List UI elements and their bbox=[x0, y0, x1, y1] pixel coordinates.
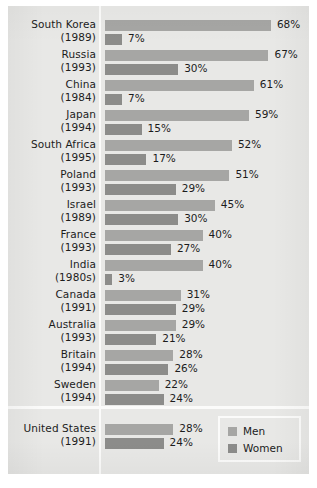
country-name: France bbox=[8, 228, 96, 241]
row-label-russia: Russia(1993) bbox=[8, 48, 96, 74]
bar-line-women: 30% bbox=[105, 64, 309, 75]
legend-label-men: Men bbox=[243, 425, 265, 437]
bar-line-men: 61% bbox=[105, 80, 309, 91]
bar-men bbox=[105, 350, 173, 361]
bar-men bbox=[105, 424, 173, 435]
row-bars: 45%30% bbox=[105, 198, 309, 228]
bar-line-men: 28% bbox=[105, 350, 309, 361]
bar-women bbox=[105, 154, 146, 165]
bar-line-women: 26% bbox=[105, 364, 309, 375]
legend-label-women: Women bbox=[243, 442, 283, 454]
chart-row: Australia(1993)29%21% bbox=[8, 318, 309, 348]
row-bars: 29%21% bbox=[105, 318, 309, 348]
chart-legend: Men Women bbox=[218, 416, 301, 462]
country-year: (1991) bbox=[8, 301, 96, 314]
bar-value-men: 52% bbox=[238, 138, 261, 150]
bar-women bbox=[105, 364, 168, 375]
bar-value-men: 40% bbox=[209, 258, 232, 270]
row-bars: 28%26% bbox=[105, 348, 309, 378]
bar-line-men: 22% bbox=[105, 380, 309, 391]
bar-line-women: 17% bbox=[105, 154, 309, 165]
bar-women bbox=[105, 304, 176, 315]
bar-men bbox=[105, 80, 254, 91]
chart-row: Russia(1993)67%30% bbox=[8, 48, 309, 78]
bar-line-women: 7% bbox=[105, 94, 309, 105]
bar-line-men: 29% bbox=[105, 320, 309, 331]
bar-line-men: 45% bbox=[105, 200, 309, 211]
bar-men bbox=[105, 50, 268, 61]
country-name: Japan bbox=[8, 108, 96, 121]
country-name: Israel bbox=[8, 198, 96, 211]
country-name: United States bbox=[8, 422, 96, 435]
bar-line-women: 7% bbox=[105, 34, 309, 45]
bar-men bbox=[105, 140, 232, 151]
chart-panel: South Korea(1989)68%7%Russia(1993)67%30%… bbox=[8, 6, 309, 474]
row-label-canada: Canada(1991) bbox=[8, 288, 96, 314]
bar-women bbox=[105, 64, 178, 75]
bar-value-women: 17% bbox=[152, 152, 175, 164]
country-name: South Korea bbox=[8, 18, 96, 31]
bar-value-men: 31% bbox=[187, 288, 210, 300]
bar-women bbox=[105, 274, 112, 285]
bar-men bbox=[105, 380, 159, 391]
bar-men bbox=[105, 110, 249, 121]
country-year: (1993) bbox=[8, 61, 96, 74]
bar-value-women: 30% bbox=[184, 62, 207, 74]
row-bars: 40%27% bbox=[105, 228, 309, 258]
country-name: Russia bbox=[8, 48, 96, 61]
row-bars: 59%15% bbox=[105, 108, 309, 138]
bar-line-women: 15% bbox=[105, 124, 309, 135]
bar-value-men: 40% bbox=[209, 228, 232, 240]
bar-women bbox=[105, 244, 171, 255]
chart-row: Britain(1994)28%26% bbox=[8, 348, 309, 378]
legend-item-women: Women bbox=[228, 442, 283, 454]
bar-line-women: 30% bbox=[105, 214, 309, 225]
row-bars: 31%29% bbox=[105, 288, 309, 318]
bar-value-men: 68% bbox=[277, 18, 300, 30]
country-year: (1995) bbox=[8, 151, 96, 164]
bar-line-men: 68% bbox=[105, 20, 309, 31]
bar-value-men: 51% bbox=[235, 168, 258, 180]
bar-value-women: 24% bbox=[170, 392, 193, 404]
row-label-japan: Japan(1994) bbox=[8, 108, 96, 134]
country-name: China bbox=[8, 78, 96, 91]
bar-women bbox=[105, 438, 164, 449]
country-year: (1989) bbox=[8, 31, 96, 44]
bar-value-women: 30% bbox=[184, 212, 207, 224]
bar-women bbox=[105, 334, 156, 345]
bar-value-women: 15% bbox=[148, 122, 171, 134]
row-label-poland: Poland(1993) bbox=[8, 168, 96, 194]
bar-value-men: 67% bbox=[274, 48, 297, 60]
bar-value-women: 27% bbox=[177, 242, 200, 254]
legend-swatch-men-icon bbox=[228, 427, 237, 436]
bar-men bbox=[105, 260, 203, 271]
bar-chart-figure: South Korea(1989)68%7%Russia(1993)67%30%… bbox=[0, 0, 317, 488]
bar-line-men: 52% bbox=[105, 140, 309, 151]
row-label-south-africa: South Africa(1995) bbox=[8, 138, 96, 164]
row-label-south-korea: South Korea(1989) bbox=[8, 18, 96, 44]
chart-row: Poland(1993)51%29% bbox=[8, 168, 309, 198]
chart-row: South Africa(1995)52%17% bbox=[8, 138, 309, 168]
row-label-sweden: Sweden(1994) bbox=[8, 378, 96, 404]
chart-row: Japan(1994)59%15% bbox=[8, 108, 309, 138]
row-bars: 67%30% bbox=[105, 48, 309, 78]
row-label-united-states: United States(1991) bbox=[8, 422, 96, 448]
bar-line-men: 40% bbox=[105, 260, 309, 271]
bar-women bbox=[105, 94, 122, 105]
bar-line-women: 29% bbox=[105, 184, 309, 195]
country-name: Britain bbox=[8, 348, 96, 361]
bar-line-women: 29% bbox=[105, 304, 309, 315]
bar-line-men: 67% bbox=[105, 50, 309, 61]
chart-row: China(1984)61%7% bbox=[8, 78, 309, 108]
bar-men bbox=[105, 230, 203, 241]
chart-row: South Korea(1989)68%7% bbox=[8, 18, 309, 48]
chart-row: India(1980s)40%3% bbox=[8, 258, 309, 288]
bar-value-men: 22% bbox=[165, 378, 188, 390]
bar-value-men: 61% bbox=[260, 78, 283, 90]
country-year: (1994) bbox=[8, 391, 96, 404]
bar-value-men: 28% bbox=[179, 348, 202, 360]
bar-value-women: 29% bbox=[182, 182, 205, 194]
bar-value-women: 21% bbox=[162, 332, 185, 344]
country-year: (1993) bbox=[8, 241, 96, 254]
chart-row: Israel(1989)45%30% bbox=[8, 198, 309, 228]
